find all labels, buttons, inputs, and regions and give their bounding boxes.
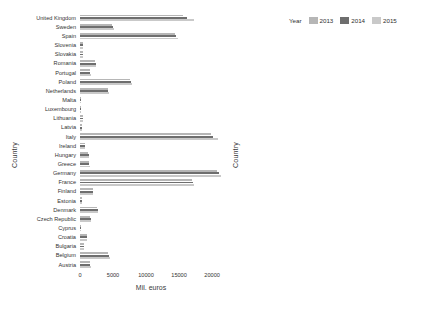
bar-2015 bbox=[80, 220, 91, 222]
y-tick-label: Slovakia bbox=[8, 51, 78, 60]
bar-2015 bbox=[80, 239, 87, 241]
bar-group bbox=[80, 160, 222, 169]
bar-2015 bbox=[80, 28, 114, 30]
x-tick-label: 10000 bbox=[138, 272, 154, 278]
bar-2015 bbox=[80, 175, 221, 177]
y-tick-label: Luxembourg bbox=[8, 105, 78, 114]
y-tick-label: Sweden bbox=[8, 23, 78, 32]
bar-2015 bbox=[80, 129, 82, 131]
y-tick-label: Slovenia bbox=[8, 41, 78, 50]
bar-group bbox=[80, 243, 222, 252]
bar-group bbox=[80, 78, 222, 87]
bar-2015 bbox=[80, 248, 84, 250]
bar-2015 bbox=[80, 193, 93, 195]
bar-2015 bbox=[80, 184, 194, 186]
bar-group bbox=[80, 69, 222, 78]
bar-group bbox=[80, 233, 222, 242]
x-tick-label: 5000 bbox=[107, 272, 119, 278]
bar-group bbox=[80, 14, 222, 23]
y-tick-label: Cyprus bbox=[8, 224, 78, 233]
y-tick-label: Denmark bbox=[8, 206, 78, 215]
y-tick-label: Spain bbox=[8, 32, 78, 41]
bar-2015 bbox=[80, 211, 98, 213]
y-tick-label: United Kingdom bbox=[8, 14, 78, 23]
bar-2015 bbox=[80, 111, 81, 113]
bar-2015 bbox=[80, 83, 132, 85]
x-axis-title-left: Mil. euros bbox=[80, 284, 222, 291]
bar-group bbox=[80, 142, 222, 151]
figure-root: Year 2013 2014 2015 Country United Kingd… bbox=[0, 0, 443, 309]
panel-mil-euros: Country United KingdomSwedenSpainSloveni… bbox=[0, 0, 222, 309]
bar-group bbox=[80, 23, 222, 32]
bar-group bbox=[80, 115, 222, 124]
y-tick-label: Latvia bbox=[8, 124, 78, 133]
bar-2015 bbox=[80, 257, 110, 259]
y-tick-label: Romania bbox=[8, 60, 78, 69]
bar-group bbox=[80, 151, 222, 160]
y-tick-label: Ireland bbox=[8, 142, 78, 151]
y-tick-label: Italy bbox=[8, 133, 78, 142]
bar-2015 bbox=[80, 38, 178, 40]
plot-area-left bbox=[80, 14, 222, 270]
bar-group bbox=[80, 179, 222, 188]
bar-2015 bbox=[80, 65, 96, 67]
y-axis-title-right: Country bbox=[232, 142, 239, 168]
y-tick-label: Austria bbox=[8, 261, 78, 270]
y-tick-label: Germany bbox=[8, 169, 78, 178]
bar-group bbox=[80, 133, 222, 142]
bar-group bbox=[80, 206, 222, 215]
bar-2015 bbox=[80, 156, 89, 158]
y-tick-label: Greece bbox=[8, 160, 78, 169]
y-tick-label: Lithuania bbox=[8, 115, 78, 124]
y-tick-label: Poland bbox=[8, 78, 78, 87]
x-tick-labels-left: 05000100001500020000 bbox=[80, 272, 222, 282]
x-tick-label: 0 bbox=[78, 272, 81, 278]
y-tick-label: Belgium bbox=[8, 252, 78, 261]
bar-2015 bbox=[80, 147, 85, 149]
bar-group bbox=[80, 105, 222, 114]
y-tick-label: Portugal bbox=[8, 69, 78, 78]
bar-2015 bbox=[80, 102, 81, 104]
bar-group bbox=[80, 224, 222, 233]
bar-2015 bbox=[80, 230, 81, 232]
y-tick-label: Finland bbox=[8, 188, 78, 197]
bar-group bbox=[80, 124, 222, 133]
bar-2015 bbox=[80, 266, 91, 268]
bar-2015 bbox=[80, 120, 83, 122]
panel-percentage: Country United KingdomSwedenSpainSloveni… bbox=[221, 0, 443, 309]
y-tick-label: Hungary bbox=[8, 151, 78, 160]
bar-group bbox=[80, 215, 222, 224]
bar-group bbox=[80, 252, 222, 261]
bar-group bbox=[80, 169, 222, 178]
bar-group bbox=[80, 51, 222, 60]
bar-2015 bbox=[80, 56, 83, 58]
y-tick-label: Croatia bbox=[8, 233, 78, 242]
y-tick-labels-left: United KingdomSwedenSpainSloveniaSlovaki… bbox=[8, 14, 78, 270]
y-tick-label: Malta bbox=[8, 96, 78, 105]
bar-2015 bbox=[80, 138, 218, 140]
bar-group bbox=[80, 197, 222, 206]
y-tick-label: France bbox=[8, 179, 78, 188]
bar-2015 bbox=[80, 202, 82, 204]
bar-group bbox=[80, 96, 222, 105]
y-tick-label: Estonia bbox=[8, 197, 78, 206]
x-tick-label: 15000 bbox=[171, 272, 187, 278]
bar-group bbox=[80, 261, 222, 270]
bar-2015 bbox=[80, 47, 83, 49]
bar-2015 bbox=[80, 74, 91, 76]
bar-group bbox=[80, 87, 222, 96]
bar-group bbox=[80, 188, 222, 197]
x-tick-label: 20000 bbox=[204, 272, 220, 278]
bar-2015 bbox=[80, 166, 90, 168]
bar-2015 bbox=[80, 19, 194, 21]
y-tick-label: Czech Republic bbox=[8, 215, 78, 224]
bar-group bbox=[80, 60, 222, 69]
bar-group bbox=[80, 41, 222, 50]
bar-group bbox=[80, 32, 222, 41]
y-tick-label: Bulgaria bbox=[8, 243, 78, 252]
y-tick-label: Netherlands bbox=[8, 87, 78, 96]
bar-2015 bbox=[80, 92, 109, 94]
